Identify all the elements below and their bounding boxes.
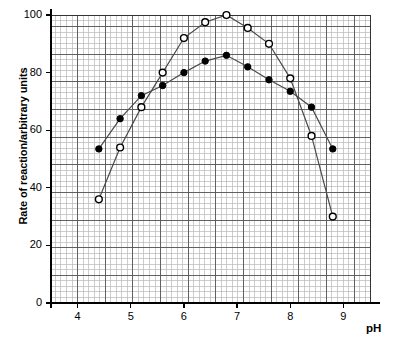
chart-container: Rate of reaction/arbitrary units pH 0204…	[0, 0, 402, 347]
data-point	[244, 25, 251, 32]
data-point	[287, 75, 294, 82]
data-point	[202, 19, 209, 26]
data-point	[159, 82, 165, 88]
data-point	[202, 58, 208, 64]
data-point	[159, 69, 166, 76]
data-point	[138, 92, 144, 98]
data-point	[287, 88, 293, 94]
data-point	[138, 104, 145, 111]
data-point	[96, 146, 102, 152]
data-point	[117, 144, 124, 151]
data-point	[95, 196, 102, 203]
plot-area	[0, 0, 402, 347]
data-point	[330, 146, 336, 152]
data-point	[308, 104, 314, 110]
data-point	[223, 52, 229, 58]
data-point	[181, 69, 187, 75]
data-point	[117, 115, 123, 121]
data-point	[266, 40, 273, 47]
data-point	[223, 12, 230, 19]
data-point	[245, 64, 251, 70]
data-point	[329, 213, 336, 220]
data-point	[181, 35, 188, 42]
data-point	[308, 133, 315, 140]
data-point	[266, 77, 272, 83]
